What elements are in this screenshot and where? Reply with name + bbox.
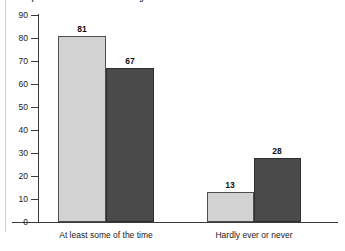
- y-tick-10: [31, 199, 38, 200]
- y-tick-70: [31, 61, 38, 62]
- bar-cat1-series2: [106, 68, 154, 222]
- y-label-10: 10: [6, 195, 28, 203]
- y-axis-line: [38, 14, 39, 223]
- bar-cat2-series1: [207, 192, 254, 222]
- bar-chart: 90 80 70 60 50 40 30 20 10 0 81 67 13 28…: [0, 0, 345, 251]
- bar-value-cat2-series1: 13: [210, 181, 250, 190]
- y-tick-90: [31, 15, 38, 16]
- y-tick-40: [31, 130, 38, 131]
- y-label-70: 70: [6, 57, 28, 65]
- y-label-80: 80: [6, 34, 28, 42]
- y-label-20: 20: [6, 172, 28, 180]
- y-label-0: 0: [6, 218, 28, 226]
- y-label-60: 60: [6, 80, 28, 88]
- x-category-label-1: At least some of the time: [36, 230, 176, 240]
- y-label-40: 40: [6, 126, 28, 134]
- bar-cat2-series2: [254, 158, 301, 222]
- bar-value-cat2-series2: 28: [257, 147, 297, 156]
- bar-value-cat1-series1: 81: [62, 25, 102, 34]
- x-axis-line: [12, 222, 338, 223]
- y-label-50: 50: [6, 103, 28, 111]
- y-tick-50: [31, 107, 38, 108]
- y-label-30: 30: [6, 149, 28, 157]
- y-tick-20: [31, 176, 38, 177]
- y-tick-80: [31, 38, 38, 39]
- y-tick-60: [31, 84, 38, 85]
- x-category-label-2: Hardly ever or never: [184, 230, 324, 240]
- y-label-90: 90: [6, 11, 28, 19]
- bar-value-cat1-series2: 67: [110, 57, 150, 66]
- y-tick-30: [31, 153, 38, 154]
- bar-cat1-series1: [58, 36, 106, 222]
- y-tick-0: [31, 222, 38, 223]
